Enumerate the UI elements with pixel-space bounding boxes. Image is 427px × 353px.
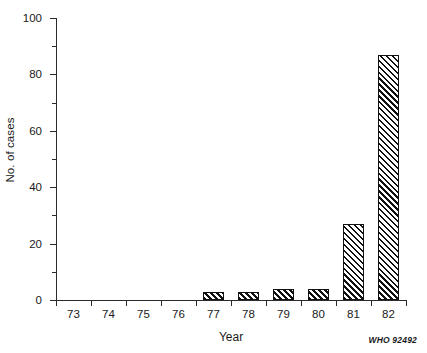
x-tick (56, 300, 57, 306)
x-tick-label: 74 (102, 308, 115, 320)
x-tick-label: 73 (67, 308, 80, 320)
y-tick-minor (52, 46, 56, 47)
x-tick-label: 80 (312, 308, 325, 320)
y-tick-major: 20 (50, 244, 56, 245)
x-tick-label: 81 (347, 308, 360, 320)
y-tick-major: 60 (50, 131, 56, 132)
y-axis-line (56, 18, 57, 300)
y-tick-major: 80 (50, 74, 56, 75)
who-credit-label: WHO 92492 (368, 335, 417, 345)
bar (343, 224, 365, 300)
y-axis-title: No. of cases (0, 0, 20, 300)
bar (378, 55, 400, 300)
x-tick (126, 300, 127, 306)
y-tick-minor (52, 103, 56, 104)
x-tick (301, 300, 302, 306)
bar-chart-figure: No. of cases 020406080100 73747576777879… (0, 0, 427, 353)
y-axis-title-label: No. of cases (4, 117, 16, 182)
x-tick-label: 79 (277, 308, 290, 320)
x-tick-label: 78 (242, 308, 255, 320)
y-tick-label: 100 (23, 12, 42, 24)
x-tick (266, 300, 267, 306)
x-tick (336, 300, 337, 306)
y-tick-major: 40 (50, 187, 56, 188)
y-tick-major: 100 (50, 18, 56, 19)
y-tick-label: 0 (36, 294, 42, 306)
bar (238, 292, 260, 300)
x-tick-label: 77 (207, 308, 220, 320)
x-tick-label: 75 (137, 308, 150, 320)
x-tick-label: 76 (172, 308, 185, 320)
bar (203, 292, 225, 300)
x-tick (91, 300, 92, 306)
x-tick (161, 300, 162, 306)
y-tick-label: 60 (29, 125, 42, 137)
x-tick-label: 82 (382, 308, 395, 320)
y-tick-minor (52, 215, 56, 216)
bar (273, 289, 295, 300)
x-tick (406, 300, 407, 306)
bar (308, 289, 330, 300)
y-tick-label: 20 (29, 238, 42, 250)
y-tick-minor (52, 272, 56, 273)
x-axis-title: Year (56, 330, 406, 344)
x-tick (371, 300, 372, 306)
x-tick (196, 300, 197, 306)
y-tick-label: 40 (29, 181, 42, 193)
plot-area: 020406080100 73747576777879808182 Year (56, 18, 406, 300)
y-tick-label: 80 (29, 68, 42, 80)
x-tick (231, 300, 232, 306)
y-tick-minor (52, 159, 56, 160)
